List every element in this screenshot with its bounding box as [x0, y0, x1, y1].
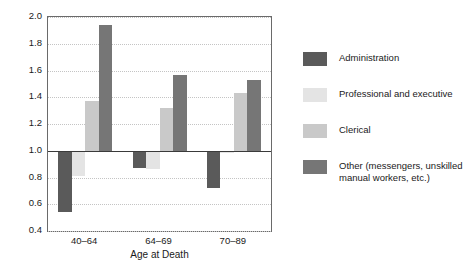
y-axis-tick-label: 1.2 [0, 118, 42, 128]
legend-swatch-icon [303, 124, 327, 138]
legend-item-label: Other (messengers, unskilled manual work… [339, 160, 463, 183]
gridline [48, 44, 271, 45]
reference-line-1.0 [48, 151, 271, 152]
y-axis-tick-label: 0.4 [0, 225, 42, 235]
bar [234, 93, 248, 151]
bar [207, 151, 221, 188]
legend-swatch-icon [303, 160, 327, 174]
legend-swatch-icon [303, 52, 327, 66]
gridline [48, 71, 271, 72]
x-axis-tick-label: 70–89 [220, 236, 246, 246]
x-axis-tick-label: 64–69 [145, 236, 171, 246]
bar [160, 108, 174, 151]
x-axis-tick-label: 40–64 [71, 236, 97, 246]
x-axis-title: Age at Death [47, 250, 272, 260]
legend-swatch-icon [303, 88, 327, 102]
y-axis-tick-label: 1.4 [0, 92, 42, 102]
y-axis-tick-label: 0.8 [0, 172, 42, 182]
legend-item[interactable]: Other (messengers, unskilled manual work… [303, 160, 471, 183]
legend-item[interactable]: Clerical [303, 124, 471, 138]
gridline [48, 17, 271, 18]
bar [85, 101, 99, 150]
y-axis-tick-label: 2.0 [0, 11, 42, 21]
y-axis-tick-label: 1.0 [0, 145, 42, 155]
gridline [48, 204, 271, 205]
bar [133, 151, 147, 168]
bar [146, 151, 160, 170]
gridline [48, 231, 271, 232]
plot-area [47, 16, 272, 232]
y-axis-tick-label: 1.6 [0, 65, 42, 75]
bar [247, 80, 261, 151]
gridline [48, 178, 271, 179]
y-axis-tick-label: 1.8 [0, 38, 42, 48]
legend-item[interactable]: Professional and executive [303, 88, 471, 102]
legend-item-label: Clerical [339, 124, 371, 136]
legend-item[interactable]: Administration [303, 52, 471, 66]
bar-chart-figure: Age at Death AdministrationProfessional … [0, 0, 475, 266]
y-axis-tick-label: 0.6 [0, 199, 42, 209]
legend-item-label: Administration [339, 52, 399, 64]
bar [72, 151, 86, 176]
legend-item-label: Professional and executive [339, 88, 453, 100]
bar [173, 75, 187, 151]
bar [99, 25, 113, 151]
bar [58, 151, 72, 213]
chart-legend: AdministrationProfessional and executive… [303, 52, 471, 183]
